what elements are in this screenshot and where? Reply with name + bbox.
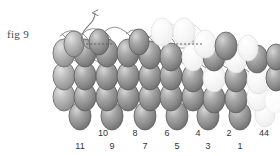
reference-label-6: 6 <box>164 128 169 138</box>
reference-label-10: 10 <box>98 128 108 138</box>
reference-label-9: 9 <box>109 141 114 151</box>
reference-label-3: 3 <box>205 141 210 151</box>
reference-label-44: 44 <box>259 128 269 138</box>
reference-label-8: 8 <box>132 128 137 138</box>
figure-caption: fig 9 <box>7 28 29 40</box>
reference-label-7: 7 <box>142 141 147 151</box>
reference-label-1: 1 <box>237 141 242 151</box>
reference-label-4: 4 <box>195 128 200 138</box>
figure-canvas: fig 9 10 8 6 4 2 44 11 9 7 5 3 1 <box>0 0 280 156</box>
reference-label-5: 5 <box>174 141 179 151</box>
lattice-diagram <box>0 0 280 156</box>
reference-label-2: 2 <box>226 128 231 138</box>
reference-label-11: 11 <box>75 141 84 151</box>
